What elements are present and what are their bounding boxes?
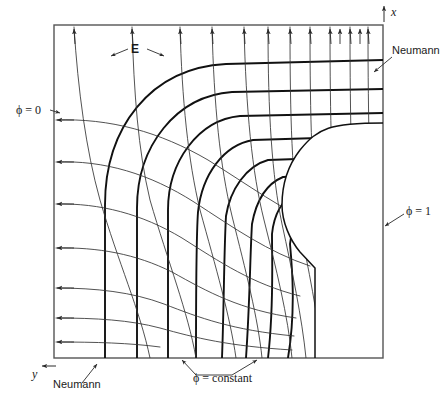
phi-zero-label: ϕ = 0 [16, 103, 41, 118]
phi-constant-label: ϕ = constant [193, 371, 252, 386]
phi-one-leader [385, 214, 404, 226]
neumann-top-right-label: Neumann [392, 44, 440, 56]
flux-plot-svg [0, 0, 443, 393]
field-symbol-label: E [131, 42, 139, 56]
y-axis-label: y [32, 367, 37, 382]
phi-one-label: ϕ = 1 [406, 204, 431, 219]
neumann-bottom-left-label: Neumann [53, 378, 101, 390]
figure-container: ϕ = 0 ϕ = 1 Neumann Neumann ϕ = constant… [0, 0, 443, 393]
domain-frame [54, 25, 383, 358]
x-axis-label: x [391, 5, 396, 20]
